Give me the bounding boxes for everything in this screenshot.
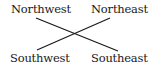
line-northwest-to-southeast: [36, 18, 118, 51]
label-southwest: Southwest: [10, 52, 70, 65]
label-northwest: Northwest: [11, 3, 71, 16]
label-northeast: Northeast: [91, 3, 148, 16]
compass-cross-diagram: Northwest Northeast Southwest Southeast: [0, 0, 157, 70]
label-southeast: Southeast: [91, 52, 148, 65]
